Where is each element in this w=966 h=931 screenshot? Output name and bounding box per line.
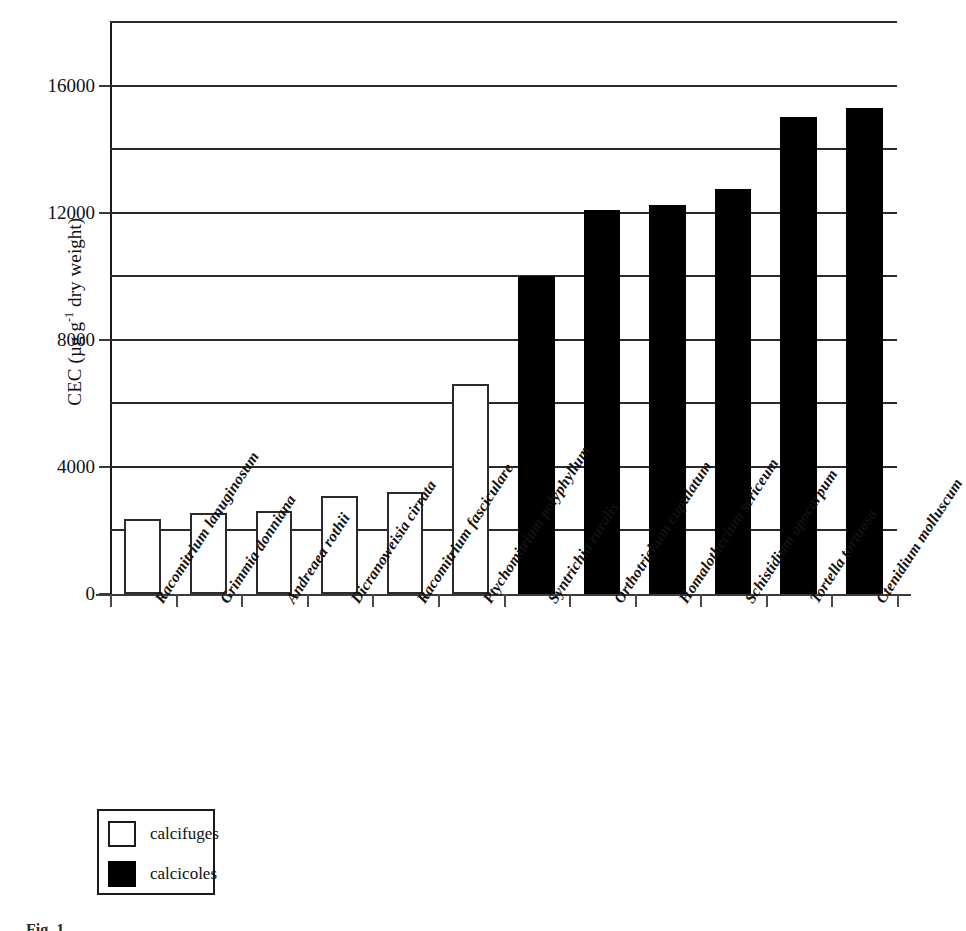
- legend-item-calcifuges: calcifuges: [108, 820, 219, 848]
- y-axis-tick-mark: [99, 339, 110, 341]
- gridline: [110, 212, 897, 214]
- y-axis-tick-mark: [99, 212, 110, 214]
- y-axis-title-suffix: dry weight): [64, 218, 85, 312]
- y-axis-tick-label: 0: [86, 583, 96, 605]
- y-axis-tick-label: 8000: [57, 328, 95, 350]
- x-axis-tick-mark: [372, 594, 374, 607]
- x-axis-tick-mark: [307, 594, 309, 607]
- x-axis-tick-mark: [897, 594, 899, 607]
- x-axis-tick-mark: [831, 594, 833, 607]
- gridline: [110, 85, 897, 87]
- chart-legend: calcifuges calcicoles: [97, 809, 215, 895]
- x-axis-tick-mark: [176, 594, 178, 607]
- gridline: [110, 275, 897, 277]
- legend-label-calcifuges: calcifuges: [150, 824, 219, 844]
- x-axis-tick-mark: [700, 594, 702, 607]
- y-axis-tick-mark: [99, 466, 110, 468]
- legend-swatch-open: [108, 821, 136, 847]
- y-axis-title-superscript: -1: [62, 312, 76, 322]
- y-axis-title: CEC (µg g-1 dry weight): [62, 152, 85, 472]
- gridline: [110, 529, 897, 531]
- x-axis-tick-mark: [569, 594, 571, 607]
- legend-label-calcicoles: calcicoles: [150, 864, 217, 884]
- figure-caption-text: Fig. 1.: [26, 921, 68, 931]
- x-axis-tick-mark: [635, 594, 637, 607]
- gridline: [110, 402, 897, 404]
- legend-item-calcicoles: calcicoles: [108, 860, 217, 888]
- figure-caption: Fig. 1.: [26, 921, 886, 931]
- gridline: [110, 21, 897, 23]
- y-axis-tick-label: 16000: [48, 74, 96, 96]
- y-axis-tick-label: 12000: [48, 201, 96, 223]
- legend-swatch-filled: [108, 861, 136, 887]
- gridline: [110, 339, 897, 341]
- y-axis-line: [110, 22, 112, 594]
- bar-racomitrium-lanuginosum: [124, 519, 161, 594]
- y-axis-tick-mark: [99, 593, 110, 595]
- x-axis-tick-mark: [438, 594, 440, 607]
- x-axis-tick-mark: [766, 594, 768, 607]
- y-axis-tick-label: 4000: [57, 455, 95, 477]
- x-axis-tick-mark: [504, 594, 506, 607]
- x-axis-tick-mark: [110, 594, 112, 607]
- y-axis-tick-mark: [99, 85, 110, 87]
- x-axis-tick-mark: [241, 594, 243, 607]
- gridline: [110, 148, 897, 150]
